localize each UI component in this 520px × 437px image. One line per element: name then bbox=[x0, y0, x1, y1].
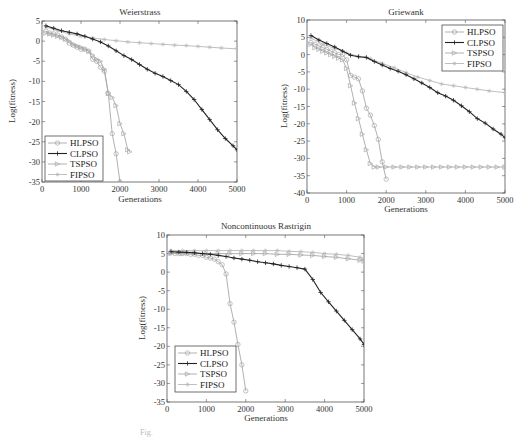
y-tick-label: -10 bbox=[154, 304, 165, 314]
x-tick-label: 2000 bbox=[378, 195, 395, 205]
figure-caption: Fig. bbox=[140, 428, 153, 437]
x-tick-label: 4000 bbox=[190, 184, 207, 194]
x-axis-label: Generations bbox=[384, 204, 428, 214]
y-tick-label: 5 bbox=[36, 16, 40, 26]
x-tick-label: 4000 bbox=[316, 404, 333, 414]
y-tick-label: -20 bbox=[294, 119, 305, 129]
y-tick-label: 0 bbox=[36, 36, 40, 46]
y-tick-label: -20 bbox=[29, 117, 40, 127]
x-tick-label: 0 bbox=[165, 404, 169, 414]
x-tick-label: 1000 bbox=[338, 195, 355, 205]
legend-label: CLPSO bbox=[467, 38, 496, 48]
y-tick-label: -25 bbox=[154, 360, 165, 370]
legend-label: CLPSO bbox=[70, 149, 99, 159]
y-tick-label: -35 bbox=[294, 171, 305, 181]
y-tick-label: -15 bbox=[154, 323, 165, 333]
x-tick-label: 2000 bbox=[237, 404, 254, 414]
y-tick-label: 10 bbox=[157, 230, 166, 240]
x-tick-label: 0 bbox=[40, 184, 44, 194]
y-tick-label: 0 bbox=[161, 267, 165, 277]
y-tick-label: -25 bbox=[29, 137, 40, 147]
y-tick-label: -10 bbox=[29, 76, 40, 86]
y-tick-label: -10 bbox=[294, 84, 305, 94]
y-tick-label: -20 bbox=[154, 341, 165, 351]
y-tick-label: 5 bbox=[161, 249, 165, 259]
legend: HLPSOCLPSOTSPSOFIPSO bbox=[442, 25, 503, 71]
legend-label: TSPSO bbox=[467, 48, 495, 58]
y-tick-label: -30 bbox=[154, 378, 165, 388]
y-axis-label: Log(fitness) bbox=[137, 296, 147, 340]
y-tick-label: 0 bbox=[301, 50, 305, 60]
x-tick-label: 5000 bbox=[497, 195, 514, 205]
y-tick-label: -15 bbox=[294, 102, 305, 112]
x-tick-label: 2000 bbox=[112, 184, 129, 194]
legend-label: CLPSO bbox=[200, 359, 229, 369]
chart-noncontinuous-rastrigin: Noncontinuous Rastrigin Generations Log(… bbox=[137, 221, 373, 423]
y-axis-label: Log(fitness) bbox=[7, 79, 17, 123]
chart-weierstrass: Weierstrass Generations Log(fitness) 010… bbox=[7, 7, 246, 204]
y-tick-label: 5 bbox=[301, 32, 305, 42]
x-tick-label: 4000 bbox=[457, 195, 474, 205]
x-tick-label: 3000 bbox=[277, 404, 294, 414]
x-tick-label: 0 bbox=[305, 195, 309, 205]
x-tick-label: 1000 bbox=[73, 184, 90, 194]
chart-title: Griewank bbox=[388, 7, 424, 17]
y-tick-label: -5 bbox=[298, 67, 305, 77]
legend-label: TSPSO bbox=[200, 369, 228, 379]
y-tick-label: -30 bbox=[294, 153, 305, 163]
y-tick-label: -30 bbox=[29, 157, 40, 167]
legend-label: FIPSO bbox=[467, 59, 492, 69]
y-tick-label: -5 bbox=[158, 286, 165, 296]
x-tick-label: 5000 bbox=[229, 184, 246, 194]
y-tick-label: -35 bbox=[154, 397, 165, 407]
y-tick-label: -15 bbox=[29, 97, 40, 107]
legend-label: TSPSO bbox=[70, 159, 98, 169]
legend-label: HLPSO bbox=[70, 138, 99, 148]
chart-title: Noncontinuous Rastrigin bbox=[221, 221, 312, 231]
legend-label: FIPSO bbox=[200, 380, 225, 390]
y-tick-label: -5 bbox=[33, 56, 40, 66]
chart-griewank: Griewank Generations Log(fitness) 010002… bbox=[279, 7, 514, 214]
x-axis-label: Generations bbox=[244, 413, 288, 423]
x-axis-label: Generations bbox=[118, 194, 162, 204]
x-tick-label: 1000 bbox=[198, 404, 215, 414]
y-axis-label: Log(fitness) bbox=[279, 84, 289, 128]
x-tick-label: 3000 bbox=[151, 184, 168, 194]
legend-label: FIPSO bbox=[70, 170, 95, 180]
legend: HLPSOCLPSOTSPSOFIPSO bbox=[45, 136, 103, 181]
y-tick-label: -25 bbox=[294, 136, 305, 146]
chart-title: Weierstrass bbox=[119, 7, 161, 17]
y-tick-label: -35 bbox=[29, 177, 40, 187]
legend-label: HLPSO bbox=[467, 27, 496, 37]
legend: HLPSOCLPSOTSPSOFIPSO bbox=[175, 346, 236, 392]
y-tick-label: 10 bbox=[297, 15, 306, 25]
y-tick-label: -40 bbox=[294, 188, 305, 198]
x-tick-label: 3000 bbox=[417, 195, 434, 205]
legend-label: HLPSO bbox=[200, 348, 229, 358]
x-tick-label: 5000 bbox=[356, 404, 373, 414]
